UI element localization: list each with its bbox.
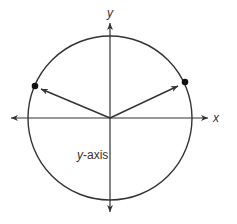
y-axis-annotation: y-axis — [76, 148, 108, 162]
right-point — [182, 79, 189, 86]
vector-to-right-point — [110, 86, 178, 118]
left-point — [32, 83, 39, 90]
y-axis-annotation-suffix: -axis — [83, 148, 108, 162]
y-axis-label: y — [106, 6, 114, 20]
x-axis-label: x — [212, 111, 220, 125]
vector-to-left-point — [41, 89, 110, 118]
unit-circle-diagram: y x y-axis — [0, 0, 237, 224]
